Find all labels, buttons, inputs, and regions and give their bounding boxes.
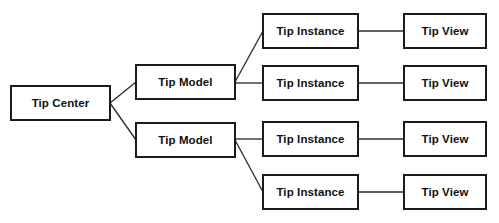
node-label: Tip View xyxy=(421,186,468,198)
node-label: Tip Center xyxy=(32,97,90,109)
node-label: Tip View xyxy=(421,77,468,89)
node-layer: Tip CenterTip ModelTip ModelTip Instance… xyxy=(11,14,486,209)
node-label: Tip View xyxy=(421,25,468,37)
node-tip-instance-2[interactable]: Tip Instance xyxy=(263,66,358,100)
node-label: Tip View xyxy=(421,133,468,145)
node-tip-instance-4[interactable]: Tip Instance xyxy=(263,175,358,209)
node-tip-view-1[interactable]: Tip View xyxy=(404,14,486,48)
node-label: Tip Instance xyxy=(276,186,344,198)
node-tip-view-4[interactable]: Tip View xyxy=(404,175,486,209)
node-tip-model-1[interactable]: Tip Model xyxy=(136,65,235,99)
node-tip-view-3[interactable]: Tip View xyxy=(404,122,486,156)
connector-layer xyxy=(110,31,404,192)
node-label: Tip Instance xyxy=(276,133,344,145)
node-label: Tip Instance xyxy=(276,25,344,37)
node-label: Tip Model xyxy=(158,76,212,88)
node-tip-instance-1[interactable]: Tip Instance xyxy=(263,14,358,48)
block-diagram: Tip CenterTip ModelTip ModelTip Instance… xyxy=(0,0,499,223)
connector-line xyxy=(110,103,136,140)
diagram-canvas: Tip CenterTip ModelTip ModelTip Instance… xyxy=(0,0,499,223)
connector-line xyxy=(110,82,136,103)
connector-line xyxy=(235,31,263,82)
node-label: Tip Model xyxy=(158,134,212,146)
node-tip-model-2[interactable]: Tip Model xyxy=(136,123,235,157)
node-tip-instance-3[interactable]: Tip Instance xyxy=(263,122,358,156)
node-tip-center[interactable]: Tip Center xyxy=(11,86,110,120)
node-label: Tip Instance xyxy=(276,77,344,89)
node-tip-view-2[interactable]: Tip View xyxy=(404,66,486,100)
connector-line xyxy=(235,140,263,192)
